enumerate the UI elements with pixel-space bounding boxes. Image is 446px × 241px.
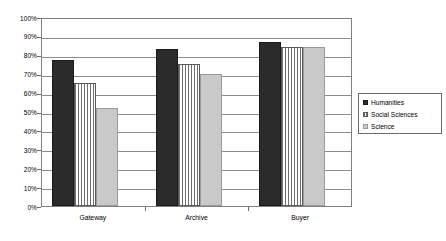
bar bbox=[52, 60, 74, 206]
y-axis-tick bbox=[37, 207, 41, 208]
bar bbox=[200, 74, 222, 206]
bar bbox=[96, 108, 118, 206]
legend-item: Science bbox=[363, 121, 437, 132]
legend-item-label: Social Sciences bbox=[371, 111, 418, 119]
legend-item-label: Science bbox=[371, 123, 394, 131]
bar bbox=[259, 42, 281, 206]
bar bbox=[156, 49, 178, 206]
y-axis-tick-label: 80% bbox=[0, 52, 37, 59]
bars-layer bbox=[42, 19, 351, 206]
y-axis-tick-label: 40% bbox=[0, 128, 37, 135]
x-axis-category-label: Archive bbox=[145, 213, 249, 222]
legend-swatch-icon bbox=[363, 112, 368, 117]
bar bbox=[303, 47, 325, 206]
legend-swatch-icon bbox=[363, 124, 368, 129]
legend-item-label: Humanities bbox=[371, 99, 404, 107]
y-axis-tick-label: 30% bbox=[0, 147, 37, 154]
x-axis-category-label: Buyer bbox=[248, 213, 352, 222]
y-axis: 0%10%20%30%40%50%60%70%80%90%100% bbox=[0, 0, 37, 241]
y-axis-tick-label: 70% bbox=[0, 71, 37, 78]
y-axis-tick-label: 90% bbox=[0, 33, 37, 40]
y-axis-tick-label: 50% bbox=[0, 109, 37, 116]
x-axis: GatewayArchiveBuyer bbox=[41, 213, 352, 229]
y-axis-tick-label: 20% bbox=[0, 166, 37, 173]
x-axis-tick bbox=[248, 207, 249, 211]
y-axis-tick-label: 0% bbox=[0, 204, 37, 211]
bar bbox=[74, 83, 96, 206]
y-axis-tick-label: 100% bbox=[0, 15, 37, 22]
bar bbox=[281, 47, 303, 206]
legend-item: Social Sciences bbox=[363, 109, 437, 120]
x-axis-tick bbox=[145, 207, 146, 211]
y-axis-tick-label: 60% bbox=[0, 90, 37, 97]
legend-item: Humanities bbox=[363, 97, 437, 108]
plot-area bbox=[41, 18, 352, 207]
bar bbox=[178, 64, 200, 206]
legend: HumanitiesSocial SciencesScience bbox=[358, 93, 442, 134]
bar-chart: 0%10%20%30%40%50%60%70%80%90%100% Gatewa… bbox=[0, 0, 446, 241]
x-axis-category-label: Gateway bbox=[41, 213, 145, 222]
legend-swatch-icon bbox=[363, 100, 368, 105]
y-axis-tick-label: 10% bbox=[0, 185, 37, 192]
